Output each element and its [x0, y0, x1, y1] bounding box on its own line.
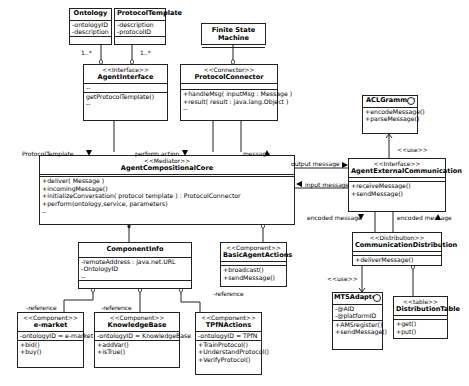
- operation: +addVar(): [97, 341, 177, 349]
- operation: --: [86, 100, 165, 108]
- operation: +put(): [396, 328, 445, 336]
- operation: +VerifyProtocol(): [198, 356, 259, 364]
- class-knowledge-base[interactable]: <<Component>> KnowledgeBase -ontologyID …: [94, 312, 180, 368]
- class-name: Finite State Machine: [204, 27, 263, 42]
- operation: --: [183, 105, 275, 113]
- class-name: ComponentInfo: [81, 246, 189, 254]
- use-label: <<use>>: [327, 275, 358, 282]
- operation: +TrainProtocol(): [198, 341, 259, 349]
- multiplicity-label: 1..*: [81, 49, 92, 56]
- class-name: ProtocolConnector: [183, 74, 275, 82]
- interface-circle-icon: [373, 294, 381, 302]
- class-name: e-market: [20, 322, 81, 330]
- class-basic-agent-actions[interactable]: <<Component>> BasicAgentActions +broadca…: [220, 242, 287, 287]
- operation: +sendMessage(): [335, 328, 380, 336]
- class-name: TPfNActions: [198, 322, 259, 330]
- class-distribution-table[interactable]: <<table>> DistributionTable +get() +put(…: [393, 296, 448, 339]
- operation: +isTrue(): [97, 348, 177, 356]
- attribute: -description: [117, 21, 163, 29]
- class-protocol-template[interactable]: ProtocolTemplate -description -protocolI…: [114, 8, 166, 45]
- class-ontology[interactable]: Ontology -ontologyID -description: [69, 8, 112, 45]
- operation: +handleMsg( inputMsg : Message ): [183, 90, 275, 98]
- attribute: -remoteAddress : java.net.URL: [81, 258, 189, 266]
- attribute: -OntologyID: [81, 265, 189, 273]
- class-agent-external-communication[interactable]: <<Interface>> AgentExternalCommunication…: [348, 158, 446, 212]
- class-e-market[interactable]: <<Component>> e-market -ontologyID = e-m…: [17, 312, 84, 368]
- input-message-label: input message: [305, 181, 349, 188]
- operation: getProtocolTemplate(): [86, 93, 165, 101]
- class-finite-state-machine[interactable]: Finite State Machine: [201, 23, 266, 45]
- class-name: KnowledgeBase: [97, 322, 177, 330]
- operation: +sendMessage(): [351, 190, 443, 198]
- message-label: message: [243, 150, 270, 157]
- attribute: -description: [72, 28, 109, 36]
- attribute: -@platformID: [335, 312, 380, 320]
- operation: +deliver( Message ): [42, 177, 292, 185]
- class-name: ProtocolTemplate: [117, 10, 163, 18]
- attribute: --: [86, 84, 165, 92]
- operation: +deliverMessage(): [355, 256, 439, 264]
- class-name: CommunicationDistribution: [355, 242, 439, 250]
- class-name: AgentInterface: [86, 74, 165, 82]
- operation: +receiveMessage(): [351, 182, 443, 190]
- reference-label: -reference: [101, 304, 132, 311]
- use-label: <<use>>: [397, 146, 428, 153]
- attribute: --: [81, 273, 189, 281]
- attribute: -ontologyID = KnowledgeBase: [97, 332, 177, 340]
- class-name: AgentCompositionalCore: [42, 165, 292, 173]
- operation: +UnderstandProtocol(): [198, 348, 259, 356]
- class-communication-distribution[interactable]: <<Distribution>> CommunicationDistributi…: [352, 232, 442, 266]
- encoded-message-down-label: encoded message: [307, 214, 362, 221]
- operation: +broadcast(): [223, 266, 284, 274]
- attribute: -@AID: [335, 305, 380, 313]
- protocol-template-label: ProtocolTemplate: [22, 150, 74, 157]
- class-name: AgentExternalCommunication: [351, 168, 443, 176]
- class-name: BasicAgentActions: [223, 252, 284, 260]
- multiplicity-label: 1..*: [140, 49, 151, 56]
- operation: +AMSregister(): [335, 321, 380, 329]
- operation: +bid(): [20, 341, 81, 349]
- class-agent-interface[interactable]: <<Interface>> AgentInterface -- getProto…: [83, 64, 168, 121]
- operation: +incomingMessage(): [42, 185, 292, 193]
- interface-circle-icon: [407, 97, 415, 105]
- operation: +parseMessage(): [365, 115, 415, 123]
- operation: +get(): [396, 320, 445, 328]
- attribute: -protocolID: [117, 28, 163, 36]
- attribute: -ontologyID: [72, 21, 109, 29]
- attribute: -ontologyID = e-market: [20, 332, 81, 340]
- class-agent-compositional-core[interactable]: <<Mediator>> AgentCompositionalCore +del…: [39, 155, 295, 225]
- class-protocol-connector[interactable]: <<Connector>> ProtocolConnector +handleM…: [180, 64, 278, 121]
- operation: --: [42, 208, 292, 216]
- operation: +buy(): [20, 348, 81, 356]
- class-name: Ontology: [72, 10, 109, 18]
- reference-label: -reference: [26, 304, 57, 311]
- operation: +initializeConversation( protocol templa…: [42, 192, 292, 200]
- operation: +perform(ontology,service, parameters): [42, 200, 292, 208]
- reference-label: -reference: [213, 290, 244, 297]
- class-name: DistributionTable: [396, 306, 445, 314]
- perform-action-label: perform action: [135, 150, 179, 157]
- class-component-info[interactable]: ComponentInfo -remoteAddress : java.net.…: [78, 242, 192, 289]
- encoded-message-up-label: encoded message: [397, 214, 452, 221]
- operation: +result( result : java.lang.Object ): [183, 98, 275, 106]
- operation: +encodeMessage(): [365, 108, 415, 116]
- operation: +sendMessage(): [223, 274, 284, 282]
- attribute: -ontologyID = TPfN: [198, 332, 259, 340]
- class-tpfn-actions[interactable]: <<Component>> TPfNActions -ontologyID = …: [195, 312, 262, 375]
- output-message-label: output message: [291, 160, 340, 167]
